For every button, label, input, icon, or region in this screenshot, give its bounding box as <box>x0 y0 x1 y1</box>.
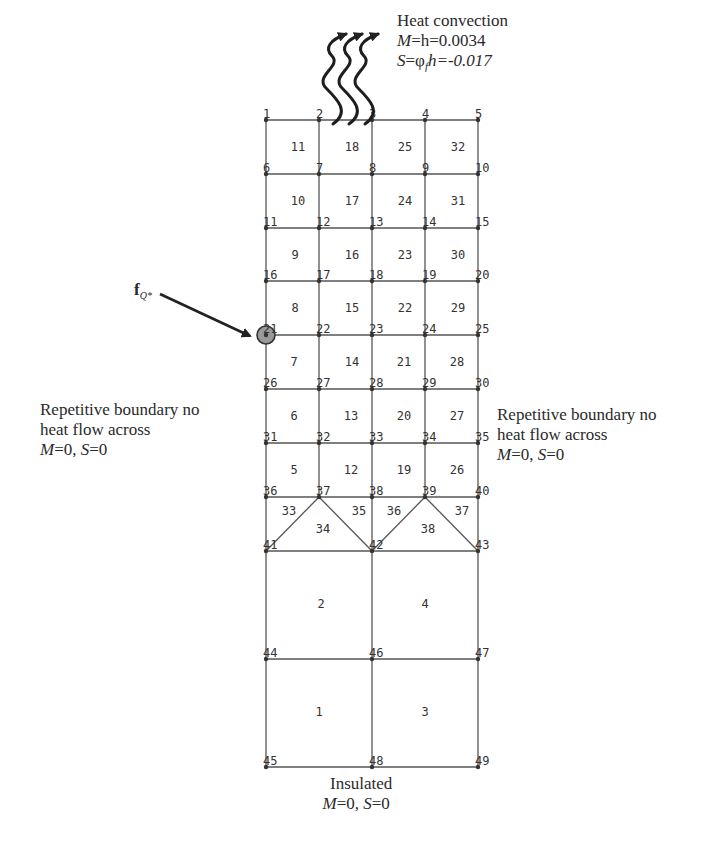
node-label: 21 <box>263 322 277 336</box>
element-label: 20 <box>397 409 411 423</box>
left-boundary-ms: M=0, S=0 <box>40 440 200 460</box>
node-label: 36 <box>263 484 277 498</box>
element-label: 7 <box>290 355 297 369</box>
node-label: 27 <box>316 376 330 390</box>
m-variable: M <box>397 31 411 50</box>
node-label: 14 <box>422 215 436 229</box>
element-label: 36 <box>387 504 401 518</box>
node-label: 48 <box>369 754 383 768</box>
s-value: h=-0.017 <box>428 51 492 70</box>
node-label: 12 <box>316 215 330 229</box>
element-label: 31 <box>451 194 465 208</box>
node-label: 47 <box>475 646 489 660</box>
node-label: 24 <box>422 322 436 336</box>
insulated-annotation: Insulated M=0, S=0 <box>326 774 392 814</box>
node-label: 37 <box>316 484 330 498</box>
element-label: 24 <box>398 194 412 208</box>
element-label: 2 <box>317 597 324 611</box>
right-boundary-annotation: Repetitive boundary no heat flow across … <box>497 405 657 465</box>
heat-convection-annotation: Heat convection M=h=0.0034 S=φfh=-0.017 <box>397 11 508 76</box>
element-label: 19 <box>397 463 411 477</box>
element-label: 12 <box>344 463 358 477</box>
heat-convection-m-line: M=h=0.0034 <box>397 31 508 51</box>
element-label: 6 <box>290 409 297 423</box>
element-label: 17 <box>345 194 359 208</box>
node-label: 30 <box>475 376 489 390</box>
node-label: 15 <box>475 215 489 229</box>
element-label: 15 <box>345 301 359 315</box>
s-value: =0 <box>89 440 107 459</box>
element-label: 14 <box>345 355 359 369</box>
node-label: 49 <box>475 754 489 768</box>
element-label: 25 <box>398 140 412 154</box>
node-label: 5 <box>475 107 482 121</box>
element-label: 1 <box>315 705 322 719</box>
element-label: 37 <box>455 504 469 518</box>
heat-convection-title: Heat convection <box>397 11 508 31</box>
node-label: 4 <box>422 107 429 121</box>
load-arrow-icon <box>160 294 250 336</box>
node-label: 10 <box>475 161 489 175</box>
node-label: 45 <box>263 754 277 768</box>
element-label: 38 <box>421 522 435 536</box>
node-label: 29 <box>422 376 436 390</box>
element-label: 16 <box>345 248 359 262</box>
s-variable: S <box>363 794 372 813</box>
element-label: 18 <box>345 140 359 154</box>
node-label: 43 <box>475 538 489 552</box>
node-label: 28 <box>369 376 383 390</box>
element-label: 21 <box>397 355 411 369</box>
node-label: 41 <box>263 538 277 552</box>
node-label: 19 <box>422 268 436 282</box>
s-variable: S <box>397 51 406 70</box>
node-label: 40 <box>475 484 489 498</box>
node-label: 44 <box>263 646 277 660</box>
m-variable: M <box>322 794 336 813</box>
right-boundary-line1: Repetitive boundary no <box>497 405 657 425</box>
left-boundary-line2: heat flow across <box>40 420 200 440</box>
element-label: 34 <box>316 522 330 536</box>
load-subscript: Q* <box>140 290 152 301</box>
insulated-ms: M=0, S=0 <box>320 794 392 814</box>
node-label: 23 <box>369 322 383 336</box>
phi-symbol: =φ <box>406 51 425 70</box>
left-boundary-line1: Repetitive boundary no <box>40 400 200 420</box>
element-label: 8 <box>291 301 298 315</box>
element-label: 23 <box>398 248 412 262</box>
element-label: 35 <box>352 504 366 518</box>
node-label: 35 <box>475 430 489 444</box>
element-label: 9 <box>291 248 298 262</box>
m-value: =0, <box>511 445 538 464</box>
node-label: 38 <box>369 484 383 498</box>
s-variable: S <box>81 440 90 459</box>
node-label: 16 <box>263 268 277 282</box>
node-label: 22 <box>316 322 330 336</box>
node-label: 32 <box>316 430 330 444</box>
element-label: 30 <box>451 248 465 262</box>
load-label: fQ* <box>134 280 152 306</box>
node-label: 25 <box>475 322 489 336</box>
node-label: 31 <box>263 430 277 444</box>
element-label: 29 <box>451 301 465 315</box>
element-label: 3 <box>421 705 428 719</box>
node-label: 18 <box>369 268 383 282</box>
left-boundary-annotation: Repetitive boundary no heat flow across … <box>40 400 200 460</box>
node-label: 39 <box>422 484 436 498</box>
m-variable: M <box>40 440 54 459</box>
node-label: 17 <box>316 268 330 282</box>
node-label: 26 <box>263 376 277 390</box>
element-label: 32 <box>451 140 465 154</box>
element-label: 33 <box>282 504 296 518</box>
element-label: 10 <box>291 194 305 208</box>
node-label: 2 <box>316 107 323 121</box>
m-value: =h=0.0034 <box>411 31 485 50</box>
m-value: =0, <box>337 794 364 813</box>
s-variable: S <box>538 445 547 464</box>
node-label: 8 <box>369 161 376 175</box>
node-label: 6 <box>263 161 270 175</box>
element-label: 4 <box>421 597 428 611</box>
node-label: 7 <box>316 161 323 175</box>
right-boundary-line2: heat flow across <box>497 425 657 445</box>
element-label: 28 <box>450 355 464 369</box>
node-label: 9 <box>422 161 429 175</box>
